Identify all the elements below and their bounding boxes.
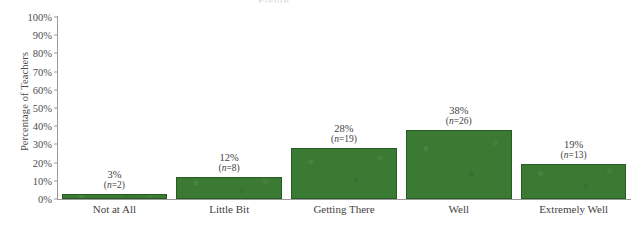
cropped-title-remnant: Figure xyxy=(258,0,304,3)
bar-value-label: 28%(n=19) xyxy=(287,123,402,145)
bar-count-value: (n=2) xyxy=(57,180,172,191)
bar-count-value: (n=13) xyxy=(516,150,631,161)
plot-area: 100%90%80%70%60%50%40%30%20%10%0% 3%(n=2… xyxy=(57,17,631,199)
bar-value-label: 3%(n=2) xyxy=(57,169,172,191)
y-axis-tick-label: 100% xyxy=(28,12,58,23)
bar xyxy=(62,194,168,199)
x-axis-category-label: Well xyxy=(401,203,516,215)
x-axis-category-label: Getting There xyxy=(287,203,402,215)
bar-value-label: 12%(n=8) xyxy=(172,152,287,174)
bar-percent-value: 12% xyxy=(172,152,287,163)
bar-percent-value: 28% xyxy=(287,123,402,134)
bar-series: 3%(n=2)12%(n=8)28%(n=19)38%(n=26)19%(n=1… xyxy=(57,17,631,199)
x-axis-category-label: Little Bit xyxy=(172,203,287,215)
bar-percent-value: 19% xyxy=(516,139,631,150)
bar-group: 12%(n=8) xyxy=(172,17,287,199)
bar-value-label: 38%(n=26) xyxy=(401,105,516,127)
x-axis-category-labels: Not at AllLittle BitGetting ThereWellExt… xyxy=(57,203,631,223)
bar-percent-value: 3% xyxy=(57,169,172,180)
x-axis-line xyxy=(57,199,631,200)
bar-percent-value: 38% xyxy=(401,105,516,116)
bar-value-label: 19%(n=13) xyxy=(516,139,631,161)
x-axis-category-label: Not at All xyxy=(57,203,172,215)
bar xyxy=(176,177,282,199)
bar-group: 19%(n=13) xyxy=(516,17,631,199)
bar-group: 38%(n=26) xyxy=(401,17,516,199)
bar-group: 3%(n=2) xyxy=(57,17,172,199)
bar-chart: Figure Percentage of Teachers 100%90%80%… xyxy=(0,0,637,226)
bar xyxy=(521,164,627,199)
bar-count-value: (n=26) xyxy=(401,116,516,127)
bar-count-value: (n=8) xyxy=(172,163,287,174)
bar-count-value: (n=19) xyxy=(287,134,402,145)
y-axis-title: Percentage of Teachers xyxy=(19,22,30,182)
bar-group: 28%(n=19) xyxy=(287,17,402,199)
bar xyxy=(291,148,397,199)
bar xyxy=(406,130,512,199)
x-axis-category-label: Extremely Well xyxy=(516,203,631,215)
